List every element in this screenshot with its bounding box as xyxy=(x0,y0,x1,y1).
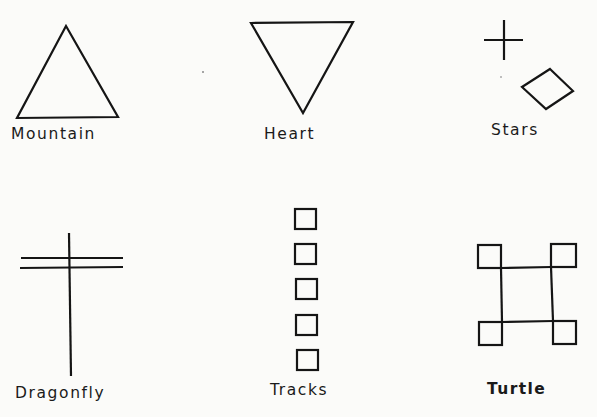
heart-symbol-icon xyxy=(251,22,353,113)
stars-label: Stars xyxy=(491,121,539,139)
turtle-label: Turtle xyxy=(487,380,546,398)
dragonfly-symbol-icon xyxy=(20,233,123,376)
tracks-symbol-icon xyxy=(295,209,318,370)
mountain-label: Mountain xyxy=(11,125,96,143)
heart-label: Heart xyxy=(264,125,315,143)
stars-symbol-icon xyxy=(484,20,573,109)
dragonfly-label: Dragonfly xyxy=(15,384,105,402)
speck xyxy=(202,71,204,73)
tracks-label: Tracks xyxy=(270,381,328,399)
symbol-diagram xyxy=(0,0,597,417)
mountain-symbol-icon xyxy=(17,26,118,118)
turtle-symbol-icon xyxy=(478,244,576,345)
speck xyxy=(500,76,502,78)
